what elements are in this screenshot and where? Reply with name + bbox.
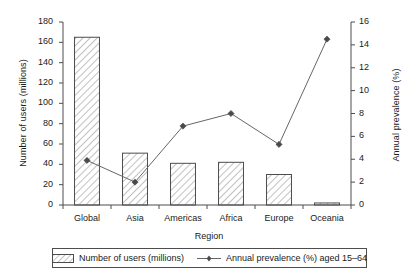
legend-bar-swatch-icon [52,254,74,263]
y-axis-right-tick-label: 16 [359,17,393,26]
x-axis-category-label: Oceania [287,213,367,223]
y-axis-right-tick-label: 10 [359,86,393,95]
y-axis-right-tick-label: 14 [359,40,393,49]
y-axis-left-tick-label: 100 [19,98,53,107]
line-marker-oceania [324,36,330,42]
bar-africa [219,162,244,205]
y-axis-left-tick-label: 160 [19,37,53,46]
line-series-layer [84,36,330,185]
bar-americas [171,163,196,205]
plot-area [0,0,418,275]
chart-legend: Number of users (millions) Annual preval… [52,248,367,268]
legend-line-marker-icon [197,254,221,263]
y-axis-left-tick-label: 140 [19,58,53,67]
y-axis-left-tick-label: 0 [19,200,53,209]
y-axis-left-tick-label: 180 [19,17,53,26]
axes-layer [59,22,355,209]
y-axis-right-tick-label: 0 [359,200,393,209]
y-axis-right-tick-label: 8 [359,109,393,118]
bar-europe [267,175,292,206]
y-axis-left-tick-label: 120 [19,78,53,87]
y-axis-left-tick-label: 20 [19,180,53,189]
y-axis-right-tick-label: 2 [359,177,393,186]
bar-global [75,37,100,205]
legend-line-label: Annual prevalence (%) aged 15–64 [226,253,367,263]
line-marker-africa [228,110,234,116]
y-axis-right-tick-label: 4 [359,154,393,163]
legend-entry-line: Annual prevalence (%) aged 15–64 [197,253,367,263]
y-axis-left-tick-label: 80 [19,119,53,128]
legend-entry-bar: Number of users (millions) [52,253,184,263]
bar-oceania [315,203,340,205]
chart-container: Number of users (millions) Annual preval… [0,0,418,275]
y-axis-left-tick-label: 40 [19,159,53,168]
legend-bar-label: Number of users (millions) [79,253,184,263]
y-axis-left-tick-label: 60 [19,139,53,148]
y-axis-right-tick-label: 6 [359,131,393,140]
bars-layer [75,37,340,205]
y-axis-right-tick-label: 12 [359,63,393,72]
line-marker-europe [276,141,282,147]
